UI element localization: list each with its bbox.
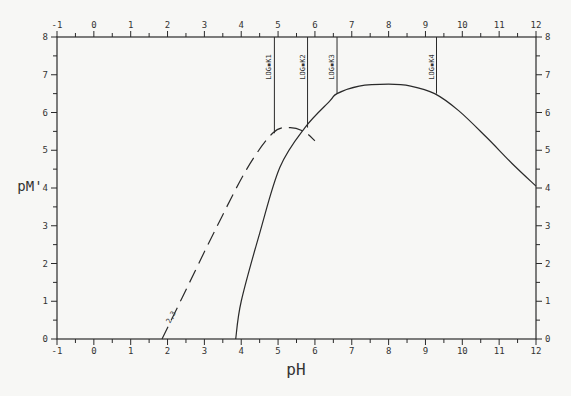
plot-border [57,37,536,339]
y-tick-label-right: 1 [545,296,550,306]
x-tick-label: -1 [52,346,63,356]
x-tick-label-top: 8 [386,20,391,30]
x-tick-label-top: 7 [349,20,354,30]
y-tick-label-right: 0 [545,334,550,344]
y-tick-label: 7 [43,70,48,80]
y-tick-label: 1 [43,296,48,306]
logk-label: LOG▪K1 [265,54,273,79]
x-tick-label: 1 [128,346,133,356]
x-tick-label: 4 [239,346,244,356]
logk-label: LOG▪K3 [328,54,336,79]
y-tick-label-right: 7 [545,70,550,80]
x-tick-label: 11 [494,346,505,356]
x-tick-label-top: 6 [312,20,317,30]
x-tick-label-top: 1 [128,20,133,30]
y-tick-label: 8 [43,32,48,42]
y-tick-label-right: 4 [545,183,550,193]
x-tick-label-top: 4 [239,20,244,30]
y-tick-label: 3 [43,221,48,231]
x-tick-label: 8 [386,346,391,356]
y-tick-label-right: 2 [545,259,550,269]
x-tick-label: 2 [165,346,170,356]
y-tick-label: 4 [43,183,48,193]
x-tick-label: 0 [91,346,96,356]
x-tick-label: 9 [423,346,428,356]
y-tick-label: 0 [43,334,48,344]
x-tick-label: 7 [349,346,354,356]
x-tick-label-top: -1 [52,20,63,30]
y-tick-label-right: 5 [545,145,550,155]
x-tick-label: 5 [275,346,280,356]
plot-frame [57,37,536,339]
axis-tick-labels: -1-1001122334455667788991010111112120011… [43,20,551,356]
logk-annotations: LOG▪K1LOG▪K2LOG▪K3LOG▪K4 [265,37,436,133]
dashed-curve [162,128,315,339]
y-tick-label-right: 8 [545,32,550,42]
x-tick-label: 6 [312,346,317,356]
axis-ticks [51,31,542,345]
y-tick-label-right: 6 [545,108,550,118]
y-tick-label: 2 [43,259,48,269]
data-series: 2,3 [162,84,536,339]
solid-curve [236,84,536,339]
y-tick-label-right: 3 [545,221,550,231]
y-tick-label: 6 [43,108,48,118]
x-tick-label-top: 2 [165,20,170,30]
y-axis-label: pM' [17,178,42,194]
logk-label: LOG▪K2 [299,54,307,79]
x-tick-label-top: 3 [202,20,207,30]
dashed-curve-label: 2,3 [165,310,178,325]
y-tick-label: 5 [43,145,48,155]
x-tick-label-top: 0 [91,20,96,30]
logk-label: LOG▪K4 [428,54,436,79]
x-tick-label-top: 12 [531,20,542,30]
chart: -1-1001122334455667788991010111112120011… [0,0,571,396]
x-tick-label-top: 11 [494,20,505,30]
x-tick-label: 3 [202,346,207,356]
x-axis-label: pH [286,360,305,379]
x-tick-label: 12 [531,346,542,356]
x-tick-label-top: 10 [457,20,468,30]
x-tick-label-top: 9 [423,20,428,30]
x-tick-label: 10 [457,346,468,356]
x-tick-label-top: 5 [275,20,280,30]
